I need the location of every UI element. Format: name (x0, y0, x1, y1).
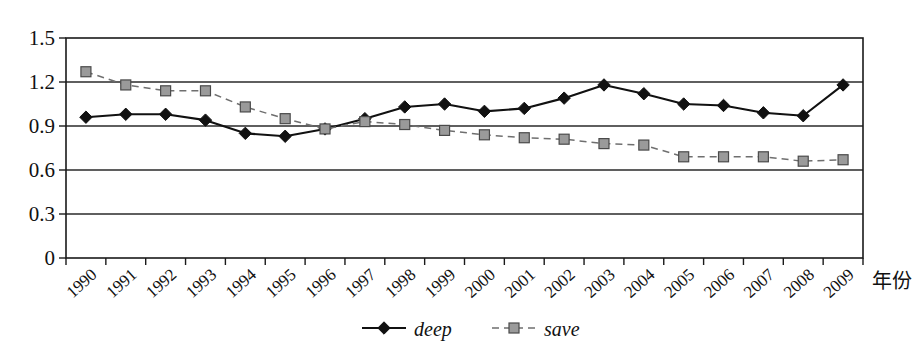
x-axis-tick-label: 2002 (541, 265, 579, 302)
x-axis-tick-label: 1992 (142, 265, 180, 302)
y-axis-tick-label: 0.9 (29, 114, 55, 138)
data-point-deep (199, 114, 211, 126)
data-point-deep (399, 101, 411, 113)
data-point-save (200, 86, 210, 96)
y-axis-tick-label: 1.5 (29, 26, 55, 50)
data-point-save (519, 133, 529, 143)
data-point-deep (638, 88, 650, 100)
plot-frame (66, 38, 863, 258)
data-point-save (440, 125, 450, 135)
x-axis-tick-label: 1994 (222, 265, 260, 302)
y-axis-ticks: 00.30.60.91.21.5 (29, 26, 66, 270)
x-axis-tick-label: 1990 (63, 265, 101, 302)
gridlines (66, 82, 863, 214)
x-axis-tick-label: 1991 (102, 265, 140, 302)
x-axis-tick-label: 2006 (700, 265, 738, 302)
legend-label-save: save (544, 318, 580, 340)
data-point-save (479, 130, 489, 140)
x-axis-tick-label: 2000 (461, 265, 499, 302)
x-axis-title: 年份 (872, 270, 912, 292)
data-point-save (360, 117, 370, 127)
data-point-save (240, 102, 250, 112)
x-axis-tick-label: 1998 (381, 265, 419, 302)
data-point-save (679, 152, 689, 162)
x-axis-tick-label: 2008 (780, 265, 818, 302)
data-point-deep (120, 108, 132, 120)
data-point-save (280, 114, 290, 124)
data-point-save (559, 134, 569, 144)
data-point-deep (478, 105, 490, 117)
data-point-save (838, 155, 848, 165)
data-point-deep (558, 92, 570, 104)
x-axis-tick-label: 1999 (421, 265, 459, 302)
data-point-deep (717, 99, 729, 111)
x-axis-tick-label: 2004 (621, 265, 659, 302)
data-point-deep (159, 108, 171, 120)
legend-marker-deep (378, 322, 390, 334)
data-point-save (320, 124, 330, 134)
data-point-deep (239, 127, 251, 139)
legend-label-deep: deep (414, 318, 452, 341)
data-point-deep (438, 98, 450, 110)
x-axis-tick-label: 2001 (501, 265, 539, 302)
x-axis-labels: 1990199119921993199419951996199719981999… (63, 265, 858, 302)
x-axis-tick-label: 2005 (660, 265, 698, 302)
x-axis-tick-label: 2009 (820, 265, 858, 302)
legend-marker-save (509, 323, 519, 333)
data-point-deep (518, 102, 530, 114)
data-point-deep (80, 111, 92, 123)
data-point-save (81, 67, 91, 77)
data-point-deep (598, 79, 610, 91)
y-axis-tick-label: 1.2 (29, 70, 55, 94)
line-chart: 00.30.60.91.21.5 19901991199219931994199… (0, 0, 924, 348)
series-line-save (86, 72, 843, 161)
chart-container: 00.30.60.91.21.5 19901991199219931994199… (0, 0, 924, 348)
data-point-save (639, 140, 649, 150)
data-point-save (400, 120, 410, 130)
data-point-save (798, 156, 808, 166)
x-axis-tick-label: 1995 (262, 265, 300, 302)
data-point-save (121, 80, 131, 90)
data-point-deep (677, 98, 689, 110)
y-axis-tick-label: 0.6 (29, 158, 55, 182)
x-axis-tick-label: 1996 (302, 265, 340, 302)
x-axis-tick-label: 1997 (342, 265, 380, 302)
data-point-save (719, 152, 729, 162)
x-axis-tick-label: 2007 (740, 265, 778, 302)
x-axis-tick-label: 1993 (182, 265, 220, 302)
data-point-save (758, 152, 768, 162)
chart-legend: deepsave (362, 318, 580, 341)
x-axis-tick-label: 2003 (581, 265, 619, 302)
data-point-save (161, 86, 171, 96)
data-point-deep (279, 130, 291, 142)
y-axis-tick-label: 0 (45, 246, 56, 270)
data-point-save (599, 139, 609, 149)
data-point-deep (757, 107, 769, 119)
x-axis-ticks (66, 258, 863, 265)
series-line-deep (86, 85, 843, 136)
y-axis-tick-label: 0.3 (29, 202, 55, 226)
